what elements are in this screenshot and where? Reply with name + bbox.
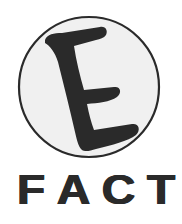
wordmark-letter-f: F bbox=[17, 168, 45, 210]
wordmark-letter-t: T bbox=[147, 168, 175, 210]
e-emblem-icon bbox=[0, 0, 182, 170]
wordmark-letter-a: A bbox=[57, 168, 91, 210]
wordmark-letter-c: C bbox=[102, 168, 136, 210]
wordmark-fact: F A C T bbox=[18, 168, 174, 210]
fact-logo: F A C T bbox=[0, 0, 182, 224]
